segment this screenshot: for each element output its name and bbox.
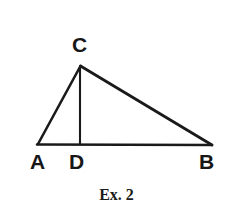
vertex-label-c: C [72, 34, 87, 55]
segment-ac [38, 66, 81, 144]
figure-caption: Ex. 2 [0, 185, 233, 204]
vertex-label-d: D [69, 151, 84, 172]
vertex-label-a: A [30, 151, 45, 172]
segment-ab [37, 145, 212, 146]
vertex-label-b: B [199, 151, 214, 172]
geometry-figure: C A D B Ex. 2 [0, 0, 233, 212]
triangle-drawing [0, 0, 233, 212]
segment-cb [81, 66, 213, 145]
